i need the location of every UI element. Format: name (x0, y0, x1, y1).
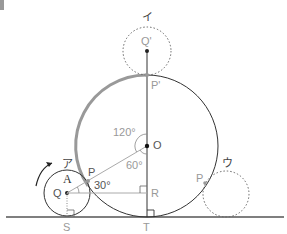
label-p-left: P (88, 167, 95, 178)
rotation-arrow (36, 163, 52, 186)
point-p-left (86, 179, 90, 183)
label-q: Q (53, 188, 62, 199)
label-q-prime: Q' (141, 36, 152, 47)
label-p-prime: P' (151, 80, 160, 91)
label-A: A (63, 173, 72, 185)
angle-60-arc (140, 150, 147, 154)
angle-30-arc (77, 187, 79, 193)
label-angle-120: 120° (113, 127, 136, 138)
label-a-katakana: ア (62, 159, 73, 170)
label-t: T (143, 222, 150, 233)
label-p-right: P (196, 173, 203, 184)
point-p-right (203, 181, 207, 185)
label-s: S (63, 222, 70, 233)
label-o: O (153, 140, 162, 151)
label-angle-60: 60° (126, 160, 143, 171)
point-o (145, 144, 149, 148)
label-r: R (151, 188, 159, 199)
right-angle-t (147, 210, 154, 217)
label-i: イ (142, 12, 153, 23)
point-p-prime (145, 73, 149, 77)
label-u: ウ (222, 158, 233, 169)
right-angle-r (140, 186, 147, 193)
label-angle-30: 30° (94, 180, 111, 191)
point-q-prime (145, 49, 149, 53)
